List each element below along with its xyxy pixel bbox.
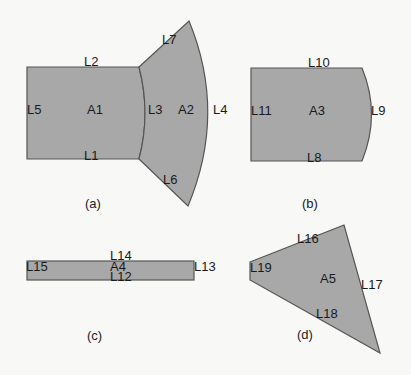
label-l1: L1 xyxy=(84,148,98,163)
label-l19: L19 xyxy=(250,260,272,275)
label-l18: L18 xyxy=(316,306,338,321)
label-a5: A5 xyxy=(320,271,336,286)
caption-d: (d) xyxy=(297,327,313,342)
panel-c: L14 L15 A4 L13 L12 (c) xyxy=(26,248,216,343)
caption-c: (c) xyxy=(87,328,102,343)
panel-b: L10 L11 A3 L9 L8 (b) xyxy=(251,55,385,211)
label-a2: A2 xyxy=(178,102,194,117)
label-l16: L16 xyxy=(297,231,319,246)
label-a3: A3 xyxy=(309,103,325,118)
label-l4: L4 xyxy=(213,102,227,117)
label-l5: L5 xyxy=(27,102,41,117)
label-l10: L10 xyxy=(308,55,330,70)
caption-b: (b) xyxy=(302,196,318,211)
panel-d: L16 L19 A5 L17 L18 (d) xyxy=(250,225,383,353)
label-l11: L11 xyxy=(251,103,272,118)
label-l7: L7 xyxy=(162,32,176,47)
label-l15: L15 xyxy=(26,259,48,274)
label-l13: L13 xyxy=(194,259,216,274)
area-a1 xyxy=(27,67,145,159)
label-l9: L9 xyxy=(371,103,385,118)
panel-a: L2 L7 L5 A1 L3 A2 L4 L1 L6 (a) xyxy=(27,21,227,211)
label-l12: L12 xyxy=(110,269,132,284)
label-l6: L6 xyxy=(163,172,177,187)
label-l2: L2 xyxy=(84,54,98,69)
geometry-diagram: L2 L7 L5 A1 L3 A2 L4 L1 L6 (a) L10 L11 A… xyxy=(0,0,411,375)
label-l8: L8 xyxy=(307,150,321,165)
caption-a: (a) xyxy=(85,196,101,211)
label-l17: L17 xyxy=(361,277,383,292)
label-a1: A1 xyxy=(87,102,103,117)
label-l3: L3 xyxy=(148,102,162,117)
